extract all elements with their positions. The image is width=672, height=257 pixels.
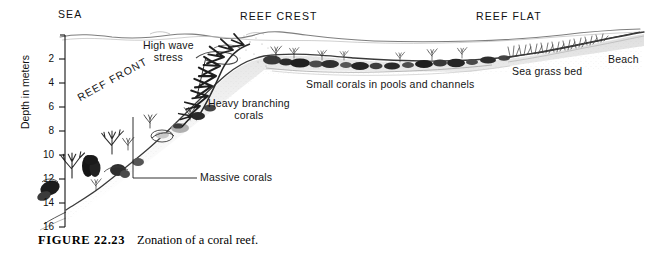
zone-label-beach: Beach xyxy=(608,54,639,66)
axis-tick-10: 10 xyxy=(32,149,54,160)
axis-tick-8: 8 xyxy=(32,125,54,136)
zone-label-reef-crest: REEF CREST xyxy=(240,11,318,23)
annotation-heavy-branching-corals: Heavy branching corals xyxy=(208,98,290,122)
depth-axis xyxy=(59,35,65,227)
reef-profile-illustration xyxy=(0,0,672,257)
axis-tick-4: 4 xyxy=(32,77,54,88)
axis-tick-6: 6 xyxy=(32,101,54,112)
heavy-branching-line1: Heavy branching xyxy=(208,98,290,110)
axis-tick-14: 14 xyxy=(32,197,54,208)
zone-label-reef-flat: REEF FLAT xyxy=(476,11,542,23)
high-wave-stress-line1: High wave xyxy=(143,40,194,52)
annotation-high-wave-stress: High wave stress xyxy=(143,40,194,64)
axis-tick-12: 12 xyxy=(32,173,54,184)
coral-reef-zonation-figure: 2 4 6 8 10 12 14 16 Depth in meters SEA … xyxy=(0,0,672,257)
annotation-sea-grass-bed: Sea grass bed xyxy=(512,66,582,78)
depth-axis-title: Depth in meters xyxy=(19,44,31,140)
zone-label-sea: SEA xyxy=(58,9,82,21)
figure-caption-number: FIGURE 22.23 xyxy=(38,233,125,247)
annotation-massive-corals: Massive corals xyxy=(200,172,272,184)
figure-caption-text: Zonation of a coral reef. xyxy=(125,233,258,247)
axis-tick-2: 2 xyxy=(32,53,54,64)
high-wave-stress-line2: stress xyxy=(143,52,194,64)
heavy-branching-line2: corals xyxy=(208,110,290,122)
figure-caption: FIGURE 22.23Zonation of a coral reef. xyxy=(38,233,258,248)
axis-tick-16: 16 xyxy=(32,221,54,232)
annotation-small-corals: Small corals in pools and channels xyxy=(306,79,474,91)
